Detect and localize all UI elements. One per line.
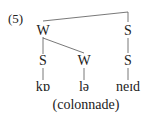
node-w-2: W (77, 54, 90, 68)
node-s-root-right: S (124, 24, 132, 38)
syllable-3: neɪd (116, 80, 140, 94)
node-s-3: S (124, 54, 132, 68)
syllable-2: lə (79, 80, 89, 94)
syllable-1: kɒ (36, 80, 50, 94)
node-s-1: S (39, 54, 47, 68)
word-gloss: (colonnade) (53, 98, 120, 112)
node-w-root-left: W (36, 24, 49, 38)
